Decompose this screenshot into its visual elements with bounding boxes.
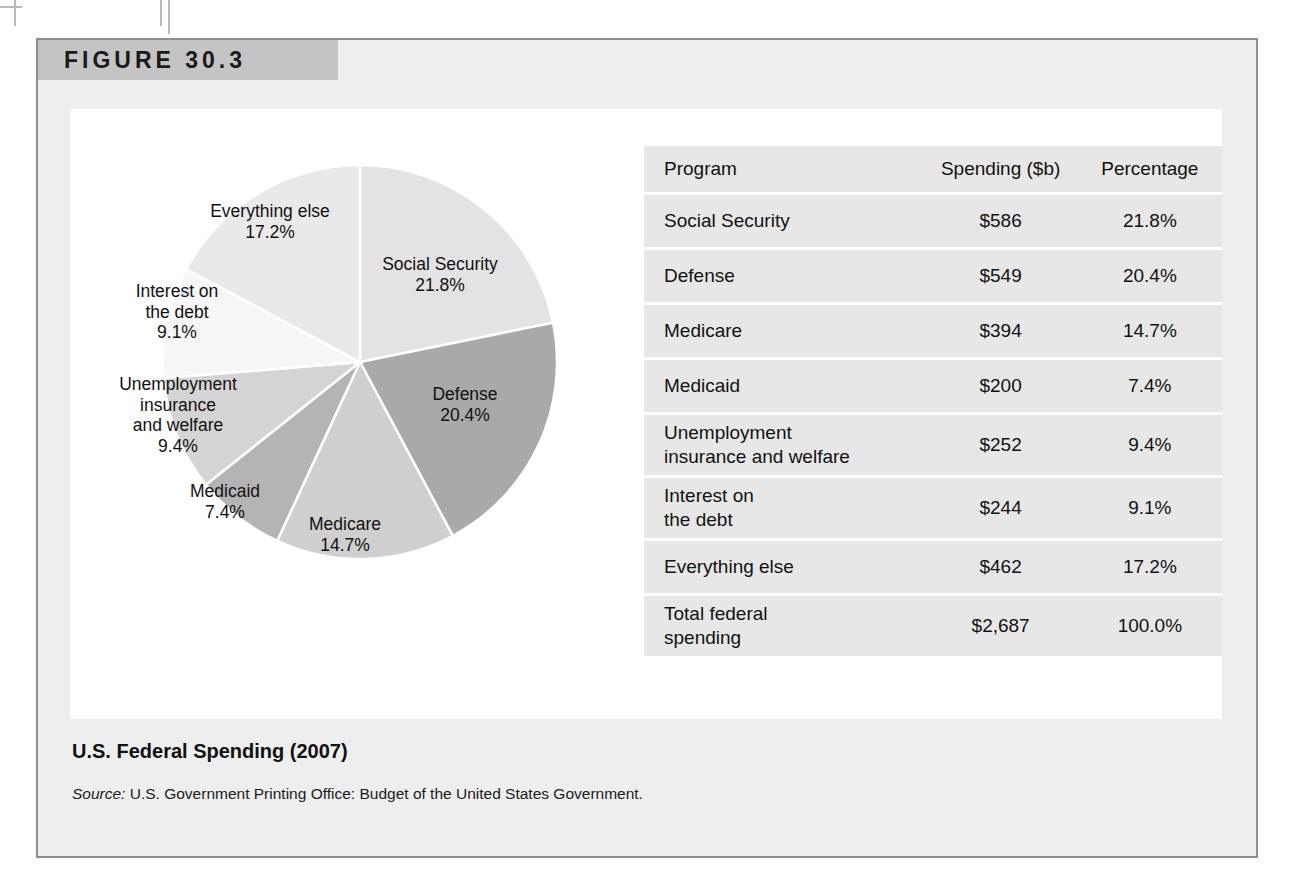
table-row: Social Security$58621.8%	[644, 195, 1222, 247]
table-cell-spending: $200	[924, 360, 1078, 412]
table-cell-percentage: 100.0%	[1078, 596, 1222, 656]
table-cell-spending: $244	[924, 478, 1078, 538]
table-cell-spending: $252	[924, 415, 1078, 475]
table-cell-program: Social Security	[644, 195, 924, 247]
table-row: Unemploymentinsurance and welfare$2529.4…	[644, 415, 1222, 475]
pie-label-text-defense: Defense	[432, 384, 497, 404]
program-line-1: Unemployment	[664, 421, 924, 445]
table-cell-program: Medicaid	[644, 360, 924, 412]
pie-label-text-social-security: Social Security	[382, 254, 498, 274]
table-cell-program: Interest onthe debt	[644, 478, 924, 538]
table-cell-percentage: 9.4%	[1078, 415, 1222, 475]
pie-label-pct-defense: 20.4%	[395, 405, 535, 426]
table-cell-spending: $586	[924, 195, 1078, 247]
pie-slice-label-unemployment: Unemployment insurance and welfare 9.4%	[88, 374, 268, 457]
crop-mark-horizontal	[0, 6, 22, 8]
table-cell-spending: $462	[924, 541, 1078, 593]
program-line-1: Total federal	[664, 602, 924, 626]
table-cell-spending: $549	[924, 250, 1078, 302]
table-row: Defense$54920.4%	[644, 250, 1222, 302]
figure-caption: U.S. Federal Spending (2007)	[72, 740, 348, 763]
pie-label-text-medicare: Medicare	[309, 514, 381, 534]
figure-panel: FIGURE 30.3 Social Security 21.8% Defens…	[36, 38, 1258, 858]
table-cell-percentage: 7.4%	[1078, 360, 1222, 412]
pie-slice-label-interest: Interest on the debt 9.1%	[102, 281, 252, 343]
table-row: Interest onthe debt$2449.1%	[644, 478, 1222, 538]
pie-chart: Social Security 21.8% Defense 20.4% Medi…	[70, 109, 630, 719]
crop-mark-vertical-left	[14, 0, 16, 26]
pie-label-text-unemployment-1: Unemployment	[119, 374, 237, 394]
pie-label-text-everything-else: Everything else	[210, 201, 330, 221]
table-row: Medicaid$2007.4%	[644, 360, 1222, 412]
program-line-2: insurance and welfare	[664, 445, 924, 469]
pie-slice-label-defense: Defense 20.4%	[395, 384, 535, 425]
figure-number-band: FIGURE 30.3	[38, 40, 338, 80]
program-line-2: the debt	[664, 508, 924, 532]
table-cell-program: Defense	[644, 250, 924, 302]
pie-label-text-interest-1: Interest on	[136, 281, 219, 301]
pie-label-text-interest-2: the debt	[102, 302, 252, 323]
table-cell-percentage: 20.4%	[1078, 250, 1222, 302]
figure-number-label: FIGURE 30.3	[38, 47, 246, 74]
figure-content-plate: Social Security 21.8% Defense 20.4% Medi…	[70, 109, 1222, 719]
crop-marks	[0, 0, 1290, 34]
pie-label-pct-everything-else: 17.2%	[165, 222, 375, 243]
table-cell-percentage: 17.2%	[1078, 541, 1222, 593]
spending-table-container: Program Spending ($b) Percentage Social …	[644, 143, 1222, 703]
figure-source: Source: U.S. Government Printing Office:…	[72, 785, 643, 803]
pie-label-pct-medicaid: 7.4%	[155, 502, 295, 523]
table-cell-program: Everything else	[644, 541, 924, 593]
pie-label-pct-unemployment: 9.4%	[88, 436, 268, 457]
crop-mark-vertical-mid2	[168, 0, 170, 34]
table-row: Total federalspending$2,687100.0%	[644, 596, 1222, 656]
table-header-spending: Spending ($b)	[924, 146, 1078, 192]
table-row: Medicare$39414.7%	[644, 305, 1222, 357]
pie-label-text-unemployment-2: insurance	[88, 395, 268, 416]
pie-slice-label-social-security: Social Security 21.8%	[340, 254, 540, 295]
pie-label-text-medicaid: Medicaid	[190, 481, 260, 501]
pie-label-text-unemployment-3: and welfare	[88, 415, 268, 436]
table-cell-percentage: 21.8%	[1078, 195, 1222, 247]
table-cell-spending: $2,687	[924, 596, 1078, 656]
program-line-2: spending	[664, 626, 924, 650]
table-cell-program: Total federalspending	[644, 596, 924, 656]
table-cell-spending: $394	[924, 305, 1078, 357]
table-row: Everything else$46217.2%	[644, 541, 1222, 593]
table-header-percentage: Percentage	[1078, 146, 1222, 192]
pie-slice-label-medicaid: Medicaid 7.4%	[155, 481, 295, 522]
table-header-row: Program Spending ($b) Percentage	[644, 146, 1222, 192]
source-citation: U.S. Government Printing Office: Budget …	[130, 785, 643, 802]
spending-table: Program Spending ($b) Percentage Social …	[644, 143, 1222, 659]
table-cell-program: Medicare	[644, 305, 924, 357]
source-label: Source:	[72, 785, 125, 802]
table-cell-program: Unemploymentinsurance and welfare	[644, 415, 924, 475]
pie-label-pct-social-security: 21.8%	[340, 275, 540, 296]
pie-label-pct-medicare: 14.7%	[270, 535, 420, 556]
table-cell-percentage: 9.1%	[1078, 478, 1222, 538]
pie-slice-label-everything-else: Everything else 17.2%	[165, 201, 375, 242]
crop-mark-vertical-mid	[160, 0, 162, 26]
program-line-1: Interest on	[664, 484, 924, 508]
pie-label-pct-interest: 9.1%	[102, 322, 252, 343]
table-cell-percentage: 14.7%	[1078, 305, 1222, 357]
table-header-program: Program	[644, 146, 924, 192]
